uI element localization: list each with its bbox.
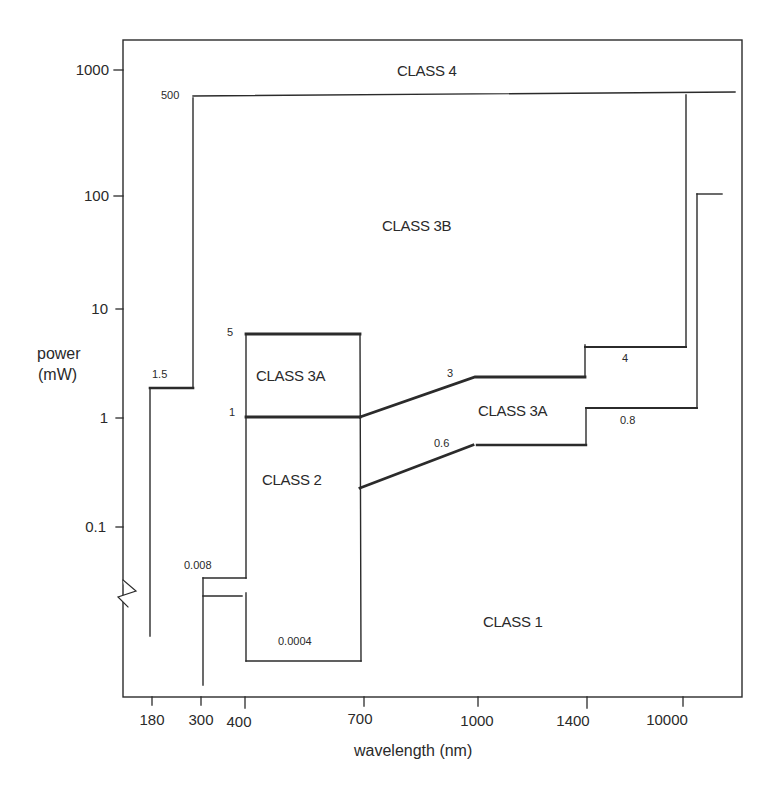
y-tick-100: 100 <box>49 187 109 204</box>
uv-class1-limit <box>203 578 246 685</box>
value-label-5: 5 <box>227 326 233 338</box>
y-axis-ticks <box>114 70 123 527</box>
y-axis-title-line1: power <box>37 345 81 363</box>
x-axis-title: wavelength (nm) <box>354 742 472 760</box>
y-tick-0-1: 0.1 <box>46 518 106 535</box>
region-label-class4: CLASS 4 <box>397 62 457 79</box>
value-label-4: 4 <box>622 352 628 364</box>
plot-frame <box>123 40 742 697</box>
region-label-class3a-visible: CLASS 3A <box>256 367 325 384</box>
region-label-class3b: CLASS 3B <box>382 217 451 234</box>
region-label-class2: CLASS 2 <box>262 471 322 488</box>
class-3b-upper-limit <box>150 92 735 636</box>
ir-class1-upper-limit <box>360 194 722 488</box>
axis-break-icon <box>118 580 136 607</box>
value-label-1-5: 1.5 <box>152 368 167 380</box>
value-label-0-008: 0.008 <box>184 559 212 571</box>
value-label-0-6: 0.6 <box>434 437 449 449</box>
chart-canvas <box>0 0 781 803</box>
x-tick-10000: 10000 <box>637 711 697 728</box>
value-label-3: 3 <box>447 367 453 379</box>
x-tick-400: 400 <box>209 713 269 730</box>
value-label-500: 500 <box>161 89 179 101</box>
x-tick-1000: 1000 <box>447 712 507 729</box>
region-label-class1: CLASS 1 <box>483 613 543 630</box>
x-tick-1400: 1400 <box>543 712 603 729</box>
value-label-1: 1 <box>229 406 235 418</box>
y-axis-title-line2: (mW) <box>38 366 77 384</box>
region-label-class3a-ir: CLASS 3A <box>478 402 547 419</box>
y-tick-1: 1 <box>48 409 108 426</box>
x-axis-ticks <box>152 697 683 708</box>
value-label-0-0004: 0.0004 <box>278 635 312 647</box>
y-tick-10: 10 <box>48 300 108 317</box>
x-tick-700: 700 <box>330 710 390 727</box>
value-label-0-8: 0.8 <box>620 414 635 426</box>
y-tick-1000: 1000 <box>49 61 109 78</box>
ir-class3a-upper-limit <box>360 95 686 417</box>
